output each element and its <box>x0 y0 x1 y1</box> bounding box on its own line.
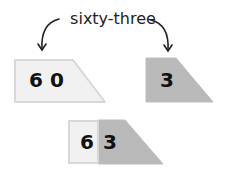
ones-card <box>145 57 217 105</box>
ones-card-digit: 3 <box>160 68 174 92</box>
combined-ones-digit: 3 <box>103 130 117 154</box>
left-arrow-icon <box>38 19 59 50</box>
right-arrow-icon <box>151 20 172 51</box>
tens-card-digits: 6 0 <box>29 68 64 92</box>
combined-tens-digit: 6 <box>80 130 94 154</box>
